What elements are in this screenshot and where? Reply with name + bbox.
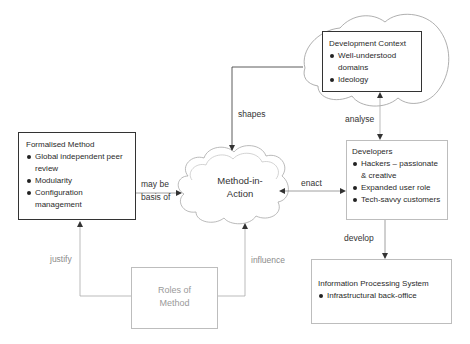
information-processing-system-title: Information Processing System bbox=[318, 278, 447, 290]
bullet-item: Global independent peer review bbox=[26, 151, 129, 175]
develop-label: develop bbox=[344, 232, 374, 245]
method-in-action-label: Method-in- Action bbox=[196, 174, 284, 200]
justify-label: justify bbox=[50, 253, 72, 266]
influence-label: influence bbox=[251, 254, 285, 267]
bullet-item: Ideology bbox=[329, 74, 416, 86]
diagram-canvas: Formalised Method Global independent pee… bbox=[0, 0, 470, 344]
roles-of-method-line1: Roles of bbox=[132, 284, 217, 297]
may-be-basis-of-label-line2: basis of bbox=[141, 191, 170, 204]
information-processing-system-box: Information Processing System Infrastruc… bbox=[311, 259, 452, 324]
bullet-item: Modularity bbox=[26, 175, 129, 187]
bullet-item: Expanded user role bbox=[352, 182, 444, 194]
roles-of-method-box: Roles of Method bbox=[131, 267, 218, 329]
formalised-method-box: Formalised Method Global independent pee… bbox=[18, 132, 136, 220]
bullet-item: Infrastructural back-office bbox=[318, 290, 447, 302]
shapes-label: shapes bbox=[238, 108, 265, 121]
bullet-item: Hackers – passionate & creative bbox=[352, 158, 444, 182]
information-processing-system-bullets: Infrastructural back-office bbox=[318, 290, 447, 302]
bullet-item: Configuration management bbox=[26, 187, 129, 211]
bullet-item: Well-understood domains bbox=[329, 50, 416, 74]
developers-title: Developers bbox=[352, 146, 444, 158]
formalised-method-title: Formalised Method bbox=[26, 139, 129, 151]
development-context-box: Development Context Well-understood doma… bbox=[322, 31, 422, 92]
enact-label: enact bbox=[301, 177, 322, 190]
roles-of-method-label: Roles of Method bbox=[132, 284, 217, 310]
may-be-basis-of-label-line1: may be bbox=[141, 178, 169, 191]
justify-connector bbox=[80, 222, 131, 296]
developers-box: Developers Hackers – passionate & creati… bbox=[346, 140, 448, 220]
roles-of-method-line2: Method bbox=[132, 297, 217, 310]
development-context-bullets: Well-understood domains Ideology bbox=[329, 50, 416, 86]
developers-bullets: Hackers – passionate & creative Expanded… bbox=[352, 158, 444, 206]
formalised-method-bullets: Global independent peer review Modularit… bbox=[26, 151, 129, 211]
development-context-title: Development Context bbox=[329, 38, 416, 50]
analyse-label: analyse bbox=[345, 113, 374, 126]
bullet-item: Tech-savvy customers bbox=[352, 194, 444, 206]
influence-connector bbox=[218, 224, 245, 296]
method-in-action-line2: Action bbox=[196, 187, 284, 200]
method-in-action-line1: Method-in- bbox=[196, 174, 284, 187]
